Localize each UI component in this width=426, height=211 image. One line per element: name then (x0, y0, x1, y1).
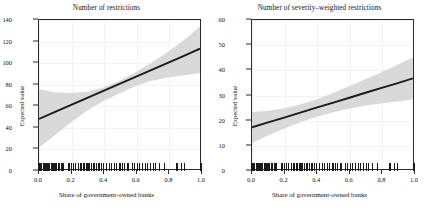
rug-tick (372, 163, 373, 171)
rug-tick (394, 163, 395, 171)
x-axis-tick-mark (136, 170, 137, 174)
y-axis-tick-label: 140 (0, 16, 12, 23)
rug-tick (159, 163, 160, 171)
rug-marks (38, 163, 201, 171)
panel-title: Number of restrictions (0, 4, 213, 12)
rug-tick (150, 163, 151, 171)
rug-tick (288, 163, 289, 171)
rug-tick (96, 163, 97, 171)
rug-tick (153, 163, 154, 171)
x-axis-label: Share of government-owned banks (0, 191, 213, 198)
y-axis-tick-label: 0 (0, 167, 12, 174)
y-axis-tick-label: 60 (203, 16, 225, 23)
rug-tick (101, 163, 102, 171)
y-axis-tick-mark (33, 40, 38, 41)
rug-tick (145, 163, 146, 171)
x-axis-tick-mark (103, 170, 104, 174)
rug-tick (355, 163, 356, 171)
x-axis-tick-mark (414, 170, 415, 174)
x-axis-tick-label: 0.0 (247, 176, 255, 183)
y-axis-tick-mark (33, 148, 38, 149)
fit-line (252, 20, 413, 169)
rug-tick (333, 163, 334, 171)
panel-number-of-severity-weighted-restrictions: Number of severity–weighted restrictions… (213, 0, 426, 211)
y-axis-tick-mark (33, 83, 38, 84)
x-axis-tick-mark (251, 170, 252, 174)
rug-tick (177, 163, 178, 171)
rug-tick (120, 163, 121, 171)
y-axis-tick-label: 120 (0, 37, 12, 44)
plot-area (251, 19, 414, 170)
rug-tick (276, 163, 277, 171)
y-axis-tick-mark (246, 119, 251, 120)
x-axis-tick-mark (284, 170, 285, 174)
rug-tick (63, 163, 64, 171)
y-axis-tick-mark (246, 144, 251, 145)
x-axis-tick-mark (201, 170, 202, 174)
figure-two-panel-regression: Number of restrictions Expected value Sh… (0, 0, 426, 211)
rug-tick (397, 163, 398, 171)
x-axis-tick-mark (38, 170, 39, 174)
rug-tick (75, 163, 76, 171)
x-axis-tick-mark (71, 170, 72, 174)
panel-number-of-restrictions: Number of restrictions Expected value Sh… (0, 0, 213, 211)
plot-area (38, 19, 201, 170)
y-axis-tick-label: 100 (0, 59, 12, 66)
y-axis-tick-label: 20 (203, 116, 225, 123)
x-axis-label: Share of government-owned banks (213, 191, 426, 198)
x-axis-tick-label: 1.0 (410, 176, 418, 183)
rug-tick (142, 163, 143, 171)
rug-tick (390, 163, 391, 171)
rug-tick (366, 163, 367, 171)
y-axis-tick-mark (246, 44, 251, 45)
rug-tick (360, 163, 361, 171)
y-axis-tick-mark (246, 94, 251, 95)
rug-tick (309, 163, 310, 171)
rug-tick (352, 163, 353, 171)
rug-tick (128, 163, 129, 171)
x-axis-tick-label: 0.6 (345, 176, 353, 183)
y-axis-tick-mark (33, 19, 38, 20)
x-axis-tick-label: 0.6 (132, 176, 140, 183)
rug-tick (319, 163, 320, 171)
rug-tick (155, 163, 156, 171)
x-axis-tick-label: 0.2 (280, 176, 288, 183)
rug-tick (147, 163, 148, 171)
x-axis-tick-mark (168, 170, 169, 174)
y-axis-tick-mark (33, 126, 38, 127)
rug-tick (314, 163, 315, 171)
x-axis-tick-label: 0.8 (377, 176, 385, 183)
rug-tick (139, 163, 140, 171)
y-axis-tick-label: 40 (0, 123, 12, 130)
y-axis-tick-label: 20 (0, 145, 12, 152)
rug-tick (181, 163, 182, 171)
x-axis-tick-label: 0.2 (67, 176, 75, 183)
rug-tick (327, 163, 328, 171)
fit-line (39, 20, 200, 169)
x-axis-tick-label: 0.4 (99, 176, 107, 183)
rug-tick (322, 163, 323, 171)
panel-title: Number of severity–weighted restrictions (213, 4, 426, 12)
x-axis-tick-label: 0.4 (312, 176, 320, 183)
rug-tick (124, 163, 125, 171)
y-axis-tick-mark (33, 62, 38, 63)
x-axis-tick-mark (316, 170, 317, 174)
rug-tick (111, 163, 112, 171)
rug-tick (184, 163, 185, 171)
y-axis-tick-mark (246, 19, 251, 20)
rug-marks (251, 163, 414, 171)
y-axis-tick-label: 30 (203, 91, 225, 98)
rug-tick (368, 163, 369, 171)
rug-tick (377, 163, 378, 171)
y-axis-tick-label: 50 (203, 41, 225, 48)
rug-tick (335, 163, 336, 171)
rug-tick (363, 163, 364, 171)
y-axis-tick-mark (246, 69, 251, 70)
rug-tick (109, 163, 110, 171)
y-axis-label: Expected value (18, 85, 25, 125)
rug-tick (337, 163, 338, 171)
rug-tick (114, 163, 115, 171)
y-axis-tick-label: 10 (203, 141, 225, 148)
y-axis-tick-label: 40 (203, 66, 225, 73)
rug-tick (164, 163, 165, 171)
